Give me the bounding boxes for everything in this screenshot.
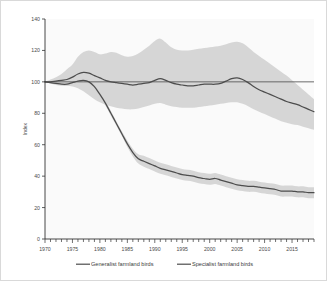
y-axis-tick-label: 60	[34, 142, 40, 148]
x-axis-tick-label: 2000	[204, 246, 216, 252]
y-axis-tick-label: 20	[34, 205, 40, 211]
x-axis-tick-label: 1985	[122, 246, 134, 252]
chart-plot-area: 0204060801001201401970197519801985199019…	[1, 1, 327, 281]
farmland-birds-index-chart: 0204060801001201401970197519801985199019…	[1, 1, 327, 281]
x-axis-tick-label: 1970	[39, 246, 51, 252]
x-axis-tick-label: 1990	[149, 246, 161, 252]
y-axis-title: Index	[22, 122, 28, 135]
x-axis-tick-label: 2010	[259, 246, 271, 252]
y-axis-tick-label: 80	[34, 110, 40, 116]
legend-label-generalist: Generalist farmland birds	[91, 261, 154, 267]
y-axis-tick-label: 0	[37, 236, 40, 242]
x-axis-tick-label: 1995	[176, 246, 188, 252]
x-axis-tick-label: 2015	[286, 246, 298, 252]
x-axis-tick-label: 1980	[94, 246, 106, 252]
x-axis-tick-label: 1975	[67, 246, 79, 252]
chart-figure: 0204060801001201401970197519801985199019…	[0, 0, 327, 281]
y-axis-tick-label: 140	[31, 16, 40, 22]
y-axis-tick-label: 100	[31, 79, 40, 85]
legend-label-specialist: Specialist farmland birds	[192, 261, 253, 267]
x-axis-tick-label: 2005	[231, 246, 243, 252]
y-axis-tick-label: 40	[34, 173, 40, 179]
y-axis-tick-label: 120	[31, 47, 40, 53]
